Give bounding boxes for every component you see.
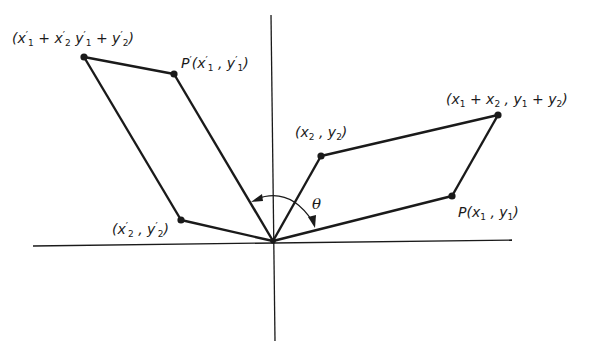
point-s	[494, 111, 501, 118]
origin-point	[270, 238, 276, 244]
label-theta: θ	[312, 197, 321, 212]
label-q: (x2 , y2)	[295, 125, 347, 142]
point-p-prime	[170, 70, 177, 77]
vector-op	[273, 196, 452, 241]
label-sum: (x1 + x2 , y1 + y2)	[446, 92, 568, 109]
label-sum-rotated: (x′1 + x′2 y′1 + y′2)	[12, 31, 134, 48]
edge-p-prime-s-prime	[84, 57, 174, 74]
vector-oq-prime	[181, 220, 273, 241]
y-axis	[271, 15, 275, 341]
point-s-prime	[80, 53, 87, 60]
label-p-prime: P′(x′1 , y′1)	[181, 56, 249, 73]
edge-ps	[452, 115, 498, 196]
point-q	[317, 152, 324, 159]
vector-op-prime	[174, 74, 273, 241]
arc-arrowhead-left-icon	[251, 194, 263, 202]
point-q-prime	[177, 216, 184, 223]
label-p: P(x1 , y1)	[458, 205, 519, 222]
point-p	[448, 192, 455, 199]
edge-sq	[321, 115, 498, 156]
arc-arrowhead-down-icon	[308, 215, 316, 228]
rotated-parallelogram	[84, 57, 273, 241]
edge-s-prime-q-prime	[84, 57, 181, 220]
vertex-dots	[80, 53, 501, 243]
diagram-canvas	[0, 0, 611, 357]
label-q-prime: (x′2 , y′2)	[112, 222, 169, 239]
angle-arc	[256, 196, 313, 222]
